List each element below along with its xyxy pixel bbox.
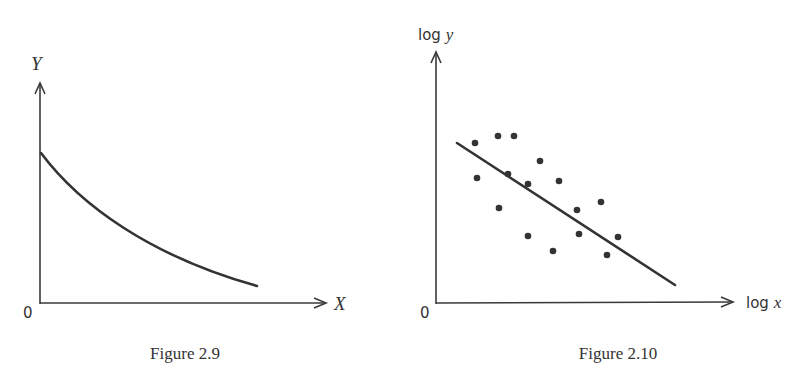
- data-point: [496, 205, 503, 212]
- data-point: [598, 199, 605, 206]
- data-point: [576, 231, 583, 238]
- scatter-points: [472, 133, 622, 259]
- regression-line: [457, 143, 675, 285]
- data-point: [604, 252, 611, 259]
- data-point: [615, 234, 622, 241]
- decreasing-curve: [41, 153, 257, 286]
- data-point: [505, 171, 512, 178]
- data-point: [574, 207, 581, 214]
- data-point: [525, 233, 532, 240]
- data-point: [537, 158, 544, 165]
- origin-label: 0: [23, 304, 33, 322]
- data-point: [556, 178, 563, 185]
- figure-2-10: log y log x 0 Figure 2.10: [418, 25, 782, 363]
- data-point: [474, 175, 481, 182]
- x-axis: [436, 302, 732, 303]
- figure-2-9: Y X 0 Figure 2.9: [23, 53, 347, 363]
- data-point: [550, 248, 557, 255]
- figures-canvas: Y X 0 Figure 2.9 log y log x 0: [0, 0, 810, 377]
- y-axis-label: Y: [31, 53, 44, 74]
- x-axis-label: X: [333, 293, 347, 314]
- x-axis-label: log x: [746, 293, 782, 312]
- y-axis-label: log y: [418, 25, 454, 44]
- data-point: [511, 133, 518, 140]
- data-point: [495, 133, 502, 140]
- origin-label: 0: [420, 304, 430, 322]
- figure-caption: Figure 2.10: [579, 344, 657, 363]
- figure-caption: Figure 2.9: [150, 344, 220, 363]
- data-point: [472, 140, 479, 147]
- data-point: [525, 181, 532, 188]
